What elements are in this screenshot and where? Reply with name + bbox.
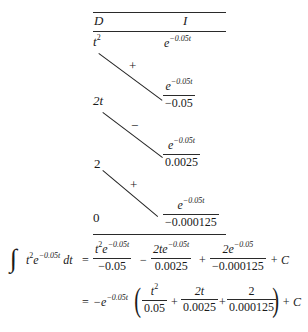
op-minus-1: −	[140, 253, 147, 268]
f1-fraction: t2 0.05	[142, 285, 167, 315]
f2-fraction: 2t 0.0025	[181, 285, 218, 314]
term3-fraction: 2e−0.05 −0.000125	[210, 243, 266, 273]
constant-c-2: + C	[282, 295, 301, 310]
factor: −e−0.05t	[93, 295, 128, 310]
sign-3: +	[130, 177, 137, 193]
row0-i: e−0.05t	[164, 36, 191, 51]
equals-2: =	[82, 295, 89, 310]
row2-i-fraction: e−0.05t 0.0025	[163, 139, 200, 169]
term1-fraction: t2e−0.05t −0.05	[93, 243, 131, 273]
fop-plus-2: +	[219, 295, 226, 310]
row3-i-fraction: e−0.05t −0.000125	[163, 199, 219, 229]
row2-d: 2	[94, 156, 101, 172]
integral-sign: ∫	[10, 246, 17, 272]
table-bottom-rule	[93, 234, 226, 235]
constant-c-1: + C	[270, 253, 289, 268]
f3-fraction: 2 0.000125	[227, 285, 276, 314]
term2-fraction: 2te−0.05t 0.0025	[151, 243, 191, 273]
row3-d: 0	[93, 210, 100, 226]
header-i: I	[183, 13, 187, 29]
integrand: t2e−0.05t dt	[26, 253, 73, 268]
table-top-rule	[93, 12, 226, 13]
row0-d: t2	[93, 34, 101, 50]
row1-i-fraction: e−0.05t −0.05	[163, 80, 195, 110]
right-paren: )	[272, 283, 279, 317]
table-header-rule	[93, 31, 226, 32]
row1-d: 2t	[93, 93, 103, 109]
sign-2: −	[131, 118, 138, 134]
sign-1: +	[129, 58, 136, 74]
header-d: D	[94, 13, 103, 29]
equals-1: =	[82, 253, 89, 268]
op-plus-1: +	[199, 253, 206, 268]
left-paren: (	[134, 283, 141, 317]
fop-plus-1: +	[171, 295, 178, 310]
